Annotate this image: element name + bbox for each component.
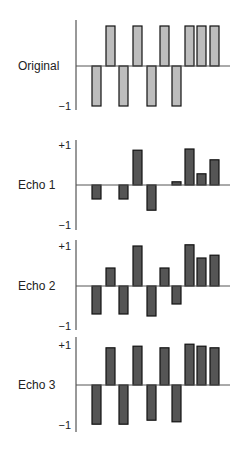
bar (119, 385, 128, 424)
bar (197, 174, 206, 185)
bar (172, 286, 181, 304)
bar (197, 346, 206, 385)
series-label: Echo 2 (18, 279, 56, 293)
bar (92, 385, 101, 424)
panel-echo-3: Echo 3+1−1 (18, 337, 230, 432)
series-label: Echo 1 (18, 178, 56, 192)
series-label: Original (18, 59, 59, 73)
bar (172, 66, 181, 106)
bar (185, 344, 194, 385)
bar (210, 26, 219, 66)
bar (92, 286, 101, 314)
bar (106, 268, 115, 286)
panel-echo-1: Echo 1+1−1 (18, 139, 230, 231)
bar (119, 185, 128, 199)
tick-minus-one: −1 (58, 100, 71, 112)
echo-bar-chart: Original−1Echo 1+1−1Echo 2+1−1Echo 3+1−1 (0, 0, 250, 451)
tick-plus-one: +1 (58, 139, 71, 151)
bar (133, 150, 142, 185)
bar (147, 185, 156, 210)
bar (133, 246, 142, 286)
bar (119, 286, 128, 314)
bar (197, 258, 206, 286)
panel-original: Original−1 (18, 20, 230, 112)
tick-plus-one: +1 (58, 240, 71, 252)
bar (92, 66, 101, 106)
bar (172, 385, 181, 422)
bar (210, 255, 219, 286)
bar (185, 26, 194, 66)
bar (160, 348, 169, 385)
bar (147, 385, 156, 420)
bar (185, 245, 194, 286)
bar (185, 149, 194, 185)
bar (92, 185, 101, 199)
tick-minus-one: −1 (58, 419, 71, 431)
bar (210, 348, 219, 385)
panel-echo-2: Echo 2+1−1 (18, 240, 230, 332)
bar (210, 160, 219, 185)
bar (147, 66, 156, 106)
bar (147, 286, 156, 316)
series-label: Echo 3 (18, 378, 56, 392)
tick-minus-one: −1 (58, 320, 71, 332)
bar (160, 268, 169, 286)
bar (197, 26, 206, 66)
bar (133, 346, 142, 385)
bar (106, 348, 115, 385)
bar (160, 26, 169, 66)
bar (133, 26, 142, 66)
tick-minus-one: −1 (58, 219, 71, 231)
bar (106, 26, 115, 66)
bar (119, 66, 128, 106)
tick-plus-one: +1 (58, 339, 71, 351)
